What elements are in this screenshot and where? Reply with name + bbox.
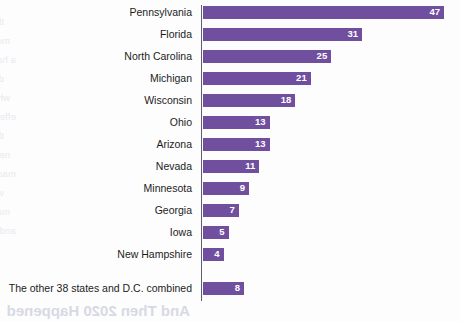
bar: 31 bbox=[203, 28, 362, 41]
bar-wrapper: 31 bbox=[203, 28, 362, 41]
bar-wrapper: 13 bbox=[203, 116, 270, 129]
bar-row: Nevada11 bbox=[0, 160, 460, 173]
bar-category-label: Ohio bbox=[0, 116, 192, 128]
bar-row: Ohio13 bbox=[0, 116, 460, 129]
bar-value-label: 13 bbox=[255, 117, 266, 127]
bar-row: New Hampshire4 bbox=[0, 248, 460, 261]
bar: 5 bbox=[203, 226, 229, 239]
bar-wrapper: 47 bbox=[203, 6, 444, 19]
bar: 4 bbox=[203, 248, 224, 261]
bar-category-label: Wisconsin bbox=[0, 94, 192, 106]
bar-category-label: Arizona bbox=[0, 138, 192, 150]
bar-row: Minnesota9 bbox=[0, 182, 460, 195]
bar: 13 bbox=[203, 116, 270, 129]
bar: 11 bbox=[203, 160, 259, 173]
bar: 25 bbox=[203, 50, 331, 63]
bar-wrapper: 9 bbox=[203, 182, 249, 195]
bar-value-label: 8 bbox=[235, 283, 240, 293]
bar-wrapper: 11 bbox=[203, 160, 259, 173]
bar-row: Wisconsin18 bbox=[0, 94, 460, 107]
bar-value-label: 13 bbox=[255, 139, 266, 149]
bar-category-label: New Hampshire bbox=[0, 248, 192, 260]
bar-category-label: Nevada bbox=[0, 160, 192, 172]
bar-wrapper: 7 bbox=[203, 204, 239, 217]
bar-value-label: 31 bbox=[347, 29, 358, 39]
bar: 7 bbox=[203, 204, 239, 217]
bar-wrapper: 4 bbox=[203, 248, 224, 261]
bar-wrapper: 5 bbox=[203, 226, 229, 239]
bar-category-label: North Carolina bbox=[0, 50, 192, 62]
bar-value-label: 47 bbox=[429, 7, 440, 17]
bar-wrapper: 18 bbox=[203, 94, 295, 107]
bar-row: Florida31 bbox=[0, 28, 460, 41]
bar-category-label: Michigan bbox=[0, 72, 192, 84]
bar: 47 bbox=[203, 6, 444, 19]
bar-category-label: The other 38 states and D.C. combined bbox=[0, 282, 192, 294]
bar-row: Pennsylvania47 bbox=[0, 6, 460, 19]
bar-category-label: Georgia bbox=[0, 204, 192, 216]
bar-wrapper: 8 bbox=[203, 282, 244, 295]
bar-wrapper: 25 bbox=[203, 50, 331, 63]
bar-row: Michigan21 bbox=[0, 72, 460, 85]
bar-row: Georgia7 bbox=[0, 204, 460, 217]
bar-chart: Pennsylvania47Florida31North Carolina25M… bbox=[0, 0, 460, 322]
bar: 8 bbox=[203, 282, 244, 295]
bar-wrapper: 21 bbox=[203, 72, 311, 85]
bar-wrapper: 13 bbox=[203, 138, 270, 151]
bar-category-label: Iowa bbox=[0, 226, 192, 238]
bar-value-label: 21 bbox=[296, 73, 307, 83]
bar-value-label: 9 bbox=[240, 183, 245, 193]
bar-value-label: 4 bbox=[214, 249, 219, 259]
bar-value-label: 25 bbox=[317, 51, 328, 61]
bar-row: Arizona13 bbox=[0, 138, 460, 151]
bar-value-label: 18 bbox=[281, 95, 292, 105]
bar-value-label: 11 bbox=[245, 161, 255, 171]
bar: 21 bbox=[203, 72, 311, 85]
bar-value-label: 7 bbox=[230, 205, 235, 215]
bar-row: North Carolina25 bbox=[0, 50, 460, 63]
bar: 13 bbox=[203, 138, 270, 151]
bar-category-label: Florida bbox=[0, 28, 192, 40]
bar-row: The other 38 states and D.C. combined8 bbox=[0, 282, 460, 295]
bar-category-label: Pennsylvania bbox=[0, 6, 192, 18]
bar: 18 bbox=[203, 94, 295, 107]
bar: 9 bbox=[203, 182, 249, 195]
bar-row: Iowa5 bbox=[0, 226, 460, 239]
bar-category-label: Minnesota bbox=[0, 182, 192, 194]
bar-value-label: 5 bbox=[219, 227, 224, 237]
